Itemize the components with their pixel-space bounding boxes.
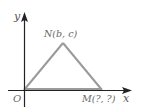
x-axis-label: x: [123, 92, 130, 105]
triangle-onm: [24, 43, 102, 90]
point-m-label: M(?, ?): [81, 93, 116, 104]
side-nm: [63, 43, 102, 90]
y-axis: [21, 12, 28, 107]
y-axis-label: y: [13, 10, 21, 23]
side-on: [24, 43, 63, 90]
point-n-label: N(b, c): [43, 28, 77, 39]
origin-label: O: [13, 93, 21, 104]
coordinate-diagram: y x O N(b, c) M(?, ?): [0, 0, 142, 107]
